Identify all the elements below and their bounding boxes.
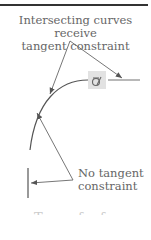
arrow-to-vertical bbox=[31, 180, 73, 183]
cut-off-caption: Tff bbox=[0, 206, 151, 215]
arrow-to-arc bbox=[50, 41, 70, 94]
tangent-constraint-icon bbox=[88, 71, 106, 89]
bottom-annotation-line2: constraint bbox=[78, 180, 144, 193]
arc-curve bbox=[30, 80, 88, 150]
arrow-to-arc-bottom bbox=[37, 113, 73, 180]
bottom-annotation: No tangent constraint bbox=[78, 167, 144, 193]
